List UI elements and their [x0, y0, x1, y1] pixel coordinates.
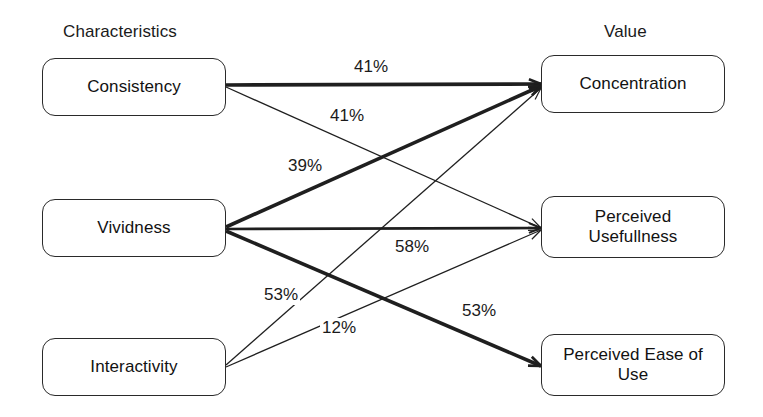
edge-consistency-usefulness — [226, 87, 541, 228]
node-label-vividness: Vividness — [97, 218, 170, 238]
edge-label-interactivity-usefulness: 12% — [320, 318, 358, 338]
column-header-characteristics: Characteristics — [63, 22, 177, 42]
node-vividness[interactable]: Vividness — [42, 199, 226, 257]
edge-label-vividness-usefulness: 58% — [393, 237, 431, 257]
arrowhead-interactivity-usefulness — [532, 230, 541, 239]
edge-label-consistency-concentration: 41% — [352, 57, 390, 77]
arrowhead-vividness-concentration — [528, 86, 541, 87]
node-label-concentration: Concentration — [579, 74, 686, 94]
edge-interactivity-concentration — [226, 88, 541, 365]
node-consistency[interactable]: Consistency — [42, 58, 226, 116]
column-header-value: Value — [604, 22, 647, 42]
node-usefulness[interactable]: Perceived Usefullness — [541, 196, 725, 258]
arrowhead-consistency-concentration — [529, 79, 541, 84]
node-label-interactivity: Interactivity — [90, 357, 177, 377]
edge-vividness-concentration — [226, 86, 541, 227]
node-label-consistency: Consistency — [87, 77, 181, 97]
node-label-usefulness: Perceived Usefullness — [589, 207, 678, 247]
arrowhead-vividness-concentration — [532, 86, 541, 95]
edge-label-consistency-usefulness: 41% — [328, 106, 366, 126]
arrowhead-consistency-usefulness — [528, 227, 541, 228]
arrowhead-consistency-concentration — [529, 84, 541, 89]
node-concentration[interactable]: Concentration — [541, 55, 725, 113]
edge-vividness-usefulness — [226, 228, 541, 229]
edge-consistency-concentration — [226, 84, 541, 85]
edge-label-vividness-concentration: 39% — [286, 156, 324, 176]
node-interactivity[interactable]: Interactivity — [42, 338, 226, 396]
node-label-ease_of_use: Perceived Ease of Use — [563, 345, 703, 385]
arrowhead-interactivity-concentration — [529, 88, 541, 92]
edge-label-interactivity-concentration: 53% — [262, 285, 300, 305]
arrowhead-vividness-usefulness — [529, 223, 541, 228]
arrowhead-vividness-usefulness — [529, 228, 541, 233]
arrowhead-vividness-ease-of-use — [532, 357, 541, 366]
node-ease_of_use[interactable]: Perceived Ease of Use — [541, 334, 725, 396]
diagram-canvas: CharacteristicsValue ConsistencyVividnes… — [0, 0, 763, 417]
arrowhead-consistency-usefulness — [532, 219, 541, 228]
edge-label-vividness-ease-of-use: 53% — [460, 301, 498, 321]
